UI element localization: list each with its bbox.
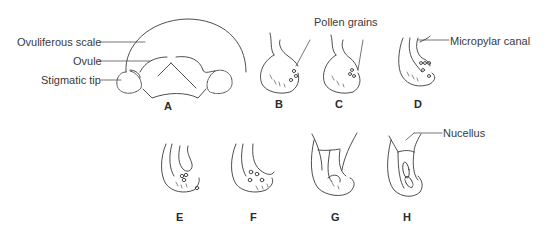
figure-c-drawing (323, 35, 363, 93)
figure-g-drawing (311, 133, 357, 195)
label-pollen-grains: Pollen grains (314, 16, 378, 28)
diagram-canvas: Ovuliferous scale Ovule Stigmatic tip Po… (0, 0, 546, 232)
figure-b-drawing (261, 33, 311, 93)
figure-label-c: C (335, 98, 343, 110)
figure-d-drawing (399, 36, 449, 86)
figure-label-d: D (414, 98, 422, 110)
figure-label-b: B (275, 98, 283, 110)
figure-a-drawing (99, 19, 246, 98)
label-ovule: Ovule (73, 55, 102, 67)
figure-e-drawing (162, 144, 200, 192)
figure-label-a: A (164, 100, 172, 112)
label-ovuliferous-scale: Ovuliferous scale (17, 36, 101, 48)
figure-label-h: H (403, 211, 411, 223)
figure-h-drawing (388, 133, 442, 196)
label-stigmatic-tip: Stigmatic tip (41, 74, 101, 86)
figure-label-e: E (176, 211, 183, 223)
stigmatic-tip-left (117, 71, 142, 93)
label-nucellus: Nucellus (443, 127, 485, 139)
figure-label-f: F (250, 211, 257, 223)
label-micropylar-canal: Micropylar canal (450, 35, 530, 47)
figure-label-g: G (331, 211, 340, 223)
stigmatic-tip-right (207, 70, 232, 93)
figure-f-drawing (232, 144, 275, 192)
